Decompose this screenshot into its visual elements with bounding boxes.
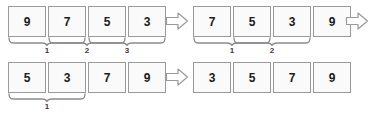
array-cell: 5 [8,62,46,93]
comparison-brace: 3 [88,37,166,57]
arrow-right-glyph [345,11,369,31]
brace-icon [88,37,166,46]
brace-icon [8,93,86,102]
array-boxes: 3 5 7 9 [193,62,351,93]
array-boxes: 9 7 5 3 [8,6,166,37]
diagram-row-2: 5 3 7 9 1 3 5 7 [0,57,373,113]
brace-label: 2 [233,46,311,56]
brace-label: 3 [88,46,166,56]
array-cell: 7 [88,62,126,93]
array-boxes: 5 3 7 9 [8,62,166,93]
comparison-braces: 1 2 [193,37,373,57]
comparison-brace: 1 [8,93,86,113]
array-cell: 5 [233,62,271,93]
array-cell: 3 [273,6,311,37]
arrow-right-glyph [165,11,189,31]
array-cell: 7 [273,62,311,93]
comparison-braces: 1 [8,93,208,113]
sorting-steps-diagram: 9 7 5 3 1 2 [0,0,373,113]
array-cell: 9 [128,62,166,93]
diagram-row-1: 9 7 5 3 1 2 [0,1,373,57]
array-cell: 5 [88,6,126,37]
array-cell: 3 [128,6,166,37]
arrow-right-glyph [165,67,189,87]
arrow-right-icon [165,67,189,87]
arrow-right-icon [165,11,189,31]
array-cell: 7 [193,6,231,37]
comparison-brace: 2 [233,37,311,57]
brace-label: 1 [8,102,86,112]
arrow-right-icon [345,11,369,31]
array-cell: 9 [313,62,351,93]
array-cell: 9 [8,6,46,37]
brace-icon [233,37,311,46]
comparison-braces: 1 2 3 [8,37,208,57]
array-cell: 7 [48,6,86,37]
array-boxes: 7 5 3 9 [193,6,351,37]
array-cell: 3 [48,62,86,93]
array-cell: 5 [233,6,271,37]
array-cell: 3 [193,62,231,93]
